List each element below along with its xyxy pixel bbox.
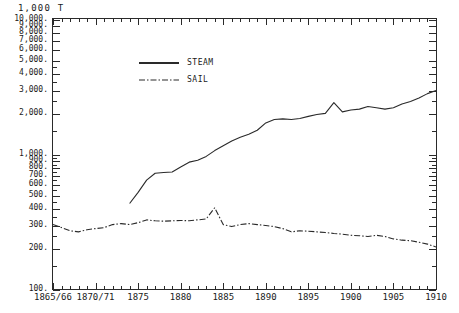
x-axis-minor-tick bbox=[359, 286, 360, 289]
x-axis-minor-tick bbox=[410, 286, 411, 289]
x-axis-minor-tick bbox=[283, 286, 284, 289]
x-axis-minor-tick-top bbox=[376, 19, 377, 22]
x-axis-tick-label: 1880 bbox=[170, 292, 192, 303]
x-axis-minor-tick-top bbox=[257, 19, 258, 22]
y-axis-tick-right bbox=[429, 26, 436, 27]
y-axis-tick bbox=[53, 161, 60, 162]
y-axis-tick bbox=[53, 290, 60, 291]
x-axis-minor-tick bbox=[385, 286, 386, 289]
x-axis-tick-label: 1900 bbox=[340, 292, 362, 303]
x-axis-tick-label: 1875 bbox=[127, 292, 149, 303]
y-axis-tick-right bbox=[429, 196, 436, 197]
x-axis-minor-tick-top bbox=[155, 19, 156, 22]
y-axis-minor-tick bbox=[53, 158, 57, 159]
y-axis-tick-label: 400. bbox=[29, 204, 48, 212]
x-axis-tick-top bbox=[181, 19, 182, 25]
y-axis-minor-tick bbox=[53, 67, 57, 68]
x-axis-minor-tick-top bbox=[359, 19, 360, 22]
x-axis-minor-tick bbox=[300, 286, 301, 289]
y-axis-minor-tick bbox=[53, 165, 57, 166]
x-axis-minor-tick bbox=[104, 286, 105, 289]
y-axis-minor-tick bbox=[53, 180, 57, 181]
x-axis-tick bbox=[138, 283, 139, 289]
x-axis-tick-label: 1895 bbox=[297, 292, 319, 303]
y-axis-unit-label: 1,000 T bbox=[18, 3, 64, 13]
x-axis-minor-tick-top bbox=[198, 19, 199, 22]
x-axis-minor-tick-top bbox=[172, 19, 173, 22]
y-axis-tick-label: 5,000. bbox=[19, 56, 48, 64]
y-axis-tick bbox=[53, 33, 60, 34]
x-axis-tick-top bbox=[436, 19, 437, 25]
x-axis-tick-top bbox=[351, 19, 352, 25]
y-axis-tick-right bbox=[429, 50, 436, 51]
x-axis-minor-tick bbox=[130, 286, 131, 289]
y-axis-tick-right bbox=[429, 20, 436, 21]
series-line-steam bbox=[130, 91, 436, 204]
x-axis-minor-tick bbox=[274, 286, 275, 289]
y-axis-tick bbox=[53, 41, 60, 42]
y-axis-minor-tick-right bbox=[432, 67, 436, 68]
x-axis-minor-tick-top bbox=[113, 19, 114, 22]
x-axis-minor-tick bbox=[342, 286, 343, 289]
x-axis-minor-tick bbox=[70, 286, 71, 289]
legend-label-sail: SAIL bbox=[187, 74, 208, 86]
x-axis-minor-tick-top bbox=[70, 19, 71, 22]
x-axis-tick bbox=[53, 283, 54, 289]
y-axis-minor-tick-right bbox=[432, 101, 436, 102]
x-axis-minor-tick bbox=[87, 286, 88, 289]
y-axis-tick-right bbox=[429, 33, 436, 34]
x-axis-tick bbox=[96, 283, 97, 289]
x-axis-minor-tick bbox=[376, 286, 377, 289]
x-axis-minor-tick bbox=[147, 286, 148, 289]
x-axis-minor-tick-top bbox=[419, 19, 420, 22]
y-axis-tick-label: 300. bbox=[29, 221, 48, 229]
y-axis-tick-label: 200. bbox=[29, 244, 48, 252]
chart-figure: 1,000 T 10,000.9,000.8,000.7,000.6,000.5… bbox=[0, 0, 459, 313]
y-axis-minor-tick-right bbox=[432, 202, 436, 203]
y-axis-minor-tick-right bbox=[432, 158, 436, 159]
x-axis-minor-tick bbox=[427, 286, 428, 289]
x-axis-tick-label: 1905 bbox=[383, 292, 405, 303]
y-axis-minor-tick-right bbox=[432, 131, 436, 132]
x-axis-minor-tick-top bbox=[240, 19, 241, 22]
y-axis-tick-right bbox=[429, 168, 436, 169]
y-axis-tick-right bbox=[429, 114, 436, 115]
x-axis-minor-tick bbox=[240, 286, 241, 289]
x-axis-minor-tick-top bbox=[291, 19, 292, 22]
x-axis-tick-top bbox=[266, 19, 267, 25]
x-axis-minor-tick bbox=[62, 286, 63, 289]
y-axis-minor-tick bbox=[53, 266, 57, 267]
y-axis-tick-right bbox=[429, 155, 436, 156]
legend-key-steam-line bbox=[139, 62, 179, 64]
y-axis-minor-tick-right bbox=[432, 165, 436, 166]
x-axis-minor-tick bbox=[232, 286, 233, 289]
x-axis-tick-label: 1890 bbox=[255, 292, 277, 303]
x-axis-tick-label: 1885 bbox=[212, 292, 234, 303]
y-axis-tick-label: 6,000. bbox=[19, 45, 48, 53]
y-axis-minor-tick-right bbox=[432, 190, 436, 191]
x-axis-tick-label: 1870/71 bbox=[77, 292, 115, 303]
y-axis-labels: 10,000.9,000.8,000.7,000.6,000.5,000.4,0… bbox=[0, 18, 52, 290]
y-axis-tick-label: 2,000. bbox=[19, 109, 48, 117]
y-axis-tick bbox=[53, 176, 60, 177]
x-axis-tick-top bbox=[96, 19, 97, 25]
x-axis-minor-tick bbox=[164, 286, 165, 289]
y-axis-tick bbox=[53, 74, 60, 75]
x-axis-minor-tick bbox=[155, 286, 156, 289]
y-axis-minor-tick bbox=[53, 217, 57, 218]
x-axis-minor-tick-top bbox=[130, 19, 131, 22]
y-axis-minor-tick bbox=[53, 131, 57, 132]
legend-key-sail-line bbox=[139, 79, 179, 81]
x-axis-minor-tick bbox=[325, 286, 326, 289]
x-axis-tick bbox=[393, 283, 394, 289]
y-axis-minor-tick bbox=[53, 101, 57, 102]
x-axis-minor-tick-top bbox=[317, 19, 318, 22]
y-axis-tick bbox=[53, 61, 60, 62]
x-axis-tick-top bbox=[393, 19, 394, 25]
x-axis-minor-tick bbox=[215, 286, 216, 289]
y-axis-tick-label: 3,000. bbox=[19, 86, 48, 94]
x-axis-minor-tick-top bbox=[427, 19, 428, 22]
y-axis-tick bbox=[53, 91, 60, 92]
y-axis-tick bbox=[53, 196, 60, 197]
x-axis-minor-tick bbox=[368, 286, 369, 289]
